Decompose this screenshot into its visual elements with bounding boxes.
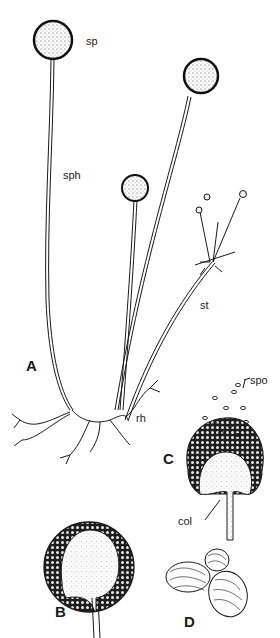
panel-d-drawing bbox=[166, 549, 252, 621]
panel-a-drawing bbox=[12, 21, 247, 464]
illustration bbox=[0, 0, 280, 638]
panel-label-d: D bbox=[184, 614, 195, 629]
rhizopus-figure: sp sph st rh spo col A B C D bbox=[0, 0, 280, 638]
label-columella: col bbox=[178, 516, 192, 527]
panel-label-a: A bbox=[26, 358, 37, 373]
label-sporangiophore: sph bbox=[63, 170, 81, 181]
panel-label-c: C bbox=[163, 451, 174, 466]
label-sporangium: sp bbox=[86, 36, 98, 47]
label-rhizoid: rh bbox=[136, 413, 146, 424]
label-stolon: st bbox=[200, 300, 209, 311]
panel-label-b: B bbox=[55, 604, 66, 619]
panel-b-drawing bbox=[44, 522, 134, 638]
panel-c-drawing bbox=[187, 378, 263, 540]
label-spores: spo bbox=[250, 375, 268, 386]
